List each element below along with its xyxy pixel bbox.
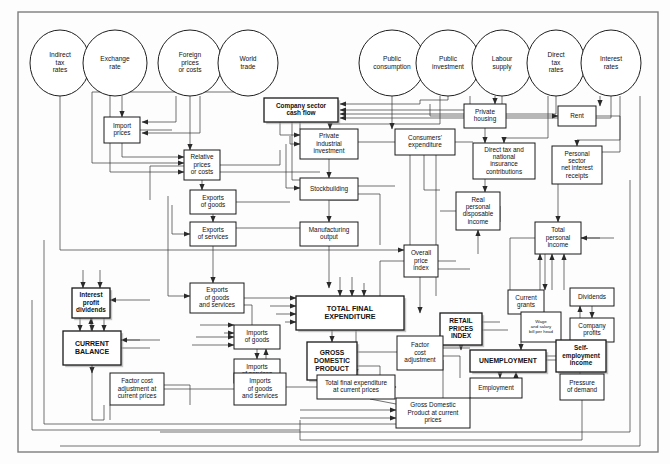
node-total_personal_income[interactable]: Totalpersonalincome [535, 222, 581, 254]
node-real_personal_disposable_income[interactable]: Realpersonaldisposableincome [456, 192, 500, 230]
svg-text:EXPENDITURE: EXPENDITURE [324, 312, 375, 321]
node-total_final_expenditure_current_prices[interactable]: Total final expenditureat current prices [317, 375, 395, 399]
node-employment[interactable]: Employment [470, 378, 522, 398]
node-factor_cost_adjustment[interactable]: Factorcostadjustment [397, 336, 443, 370]
svg-text:Real: Real [471, 196, 484, 203]
svg-text:investment: investment [432, 63, 464, 70]
node-rent[interactable]: Rent [558, 106, 596, 126]
exogenous-input-exchange_rate: Exchangerate [83, 30, 147, 96]
svg-text:of demand: of demand [567, 386, 598, 393]
svg-text:prices: prices [424, 416, 441, 424]
svg-text:Current: Current [515, 294, 537, 301]
node-consumers_expenditure[interactable]: Consumers'expenditure [395, 129, 455, 155]
svg-text:tax: tax [552, 59, 561, 66]
svg-text:rates: rates [604, 63, 619, 70]
svg-text:profits: profits [583, 329, 600, 337]
svg-text:output: output [320, 233, 338, 241]
node-total_final_expenditure[interactable]: TOTAL FINALEXPENDITURE [296, 296, 406, 332]
svg-text:of services: of services [198, 233, 229, 240]
node-overall_price_index[interactable]: Overallpriceindex [404, 245, 438, 277]
svg-text:Public: Public [383, 55, 402, 62]
exogenous-input-foreign_prices_or_costs: Foreignpricesor costs [158, 30, 222, 96]
svg-text:and services: and services [199, 301, 235, 308]
svg-text:INDEX: INDEX [451, 332, 472, 339]
node-unemployment[interactable]: UNEMPLOYMENT [470, 350, 548, 374]
svg-text:at current prices: at current prices [333, 386, 379, 394]
svg-text:DOMESTIC: DOMESTIC [314, 357, 350, 364]
exogenous-input-world_trade: Worldtrade [218, 30, 278, 96]
node-current_grants[interactable]: Currentgrants [508, 290, 544, 314]
svg-text:Interest: Interest [600, 55, 622, 62]
node-imports_of_goods[interactable]: Importsof goods [234, 325, 280, 349]
node-retail_prices_index[interactable]: RETAILPRICESINDEX [440, 313, 484, 347]
exogenous-input-direct_tax_rates: Directtaxrates [527, 30, 585, 96]
node-company_profits[interactable]: Companyprofits [570, 318, 614, 342]
svg-text:CURRENT: CURRENT [75, 340, 110, 347]
node-import_prices[interactable]: Importprices [104, 117, 140, 143]
svg-text:investment: investment [314, 147, 345, 154]
svg-text:cash flow: cash flow [286, 109, 315, 116]
svg-text:income: income [548, 241, 569, 248]
node-current_balance[interactable]: CURRENTBALANCE [63, 331, 123, 367]
node-exports_of_goods_and_services[interactable]: Exportsof goodsand services [190, 283, 244, 313]
node-exports_of_goods[interactable]: Exportsof goods [190, 190, 236, 214]
svg-text:UNEMPLOYMENT: UNEMPLOYMENT [479, 357, 538, 364]
svg-text:expenditure: expenditure [408, 141, 442, 149]
svg-text:PRICES: PRICES [449, 325, 474, 332]
svg-text:Labour: Labour [492, 55, 513, 62]
svg-text:income: income [570, 359, 593, 366]
svg-text:Direct: Direct [547, 51, 564, 58]
svg-text:income: income [468, 218, 489, 225]
svg-text:Consumers': Consumers' [408, 134, 442, 141]
node-gross_domestic_product_current_prices[interactable]: Gross DomesticProduct at currentprices [396, 398, 470, 428]
svg-text:cost: cost [414, 349, 426, 356]
node-direct_tax_and_nic[interactable]: Direct tax andnationalinsurancecontribut… [473, 143, 535, 179]
exogenous-input-public_investment: Publicinvestment [416, 30, 480, 96]
node-factor_cost_adjustment_current_prices[interactable]: Factor costadjustment atcurrent prices [110, 373, 164, 405]
svg-text:receipts: receipts [566, 172, 588, 180]
diagram-canvas: Company sectorcash flowPrivatehousingRen… [0, 0, 670, 464]
svg-text:Interest: Interest [79, 291, 103, 298]
node-private_industrial_investment[interactable]: Privateindustrialinvestment [300, 129, 358, 159]
node-self_employment_income[interactable]: Self-employmentincome [556, 340, 608, 374]
svg-text:Stockbuilding: Stockbuilding [310, 185, 348, 193]
exogenous-input-public_consumption: Publicconsumption [359, 30, 425, 96]
svg-text:or costs: or costs [178, 66, 202, 73]
node-interest_profit_dividends[interactable]: Interestprofitdividends [72, 288, 112, 320]
svg-text:consumption: consumption [373, 63, 411, 71]
svg-text:or costs: or costs [191, 168, 213, 175]
svg-text:and services: and services [242, 392, 278, 399]
svg-text:contributions: contributions [486, 168, 522, 175]
node-company_sector_cash_flow[interactable]: Company sectorcash flow [264, 98, 340, 124]
node-dividends[interactable]: Dividends [570, 288, 614, 306]
svg-text:index: index [413, 264, 429, 271]
svg-text:of goods: of goods [201, 201, 226, 209]
svg-text:Private: Private [319, 132, 339, 139]
node-manufacturing_output[interactable]: Manufacturingoutput [300, 222, 358, 246]
svg-text:housing: housing [474, 115, 497, 123]
svg-text:Public: Public [439, 55, 458, 62]
svg-text:dividends: dividends [76, 306, 106, 313]
node-pressure_of_demand[interactable]: Pressureof demand [560, 374, 604, 400]
node-personal_sector_net_interest_receipts[interactable]: Personalsectornet interestreceipts [552, 146, 602, 184]
svg-text:of goods: of goods [245, 336, 270, 344]
node-private_housing[interactable]: Privatehousing [464, 104, 506, 128]
svg-text:PRODUCT: PRODUCT [315, 365, 349, 372]
svg-text:Factor: Factor [411, 341, 430, 348]
node-stockbuilding[interactable]: Stockbuilding [300, 178, 358, 200]
node-relative_prices_or_costs[interactable]: Relativepricesor costs [184, 150, 220, 180]
exogenous-input-indirect_tax_rates: Indirecttaxrates [30, 30, 90, 96]
node-imports_of_goods_and_services[interactable]: Importsof goodsand services [234, 373, 286, 405]
svg-text:rates: rates [549, 66, 564, 73]
node-wage_and_salary_bill_per_head[interactable]: Wageand salarybill per head [521, 312, 561, 342]
node-exports_of_services[interactable]: Exportsof services [190, 222, 236, 246]
economic-flow-diagram: Company sectorcash flowPrivatehousingRen… [0, 0, 670, 464]
svg-text:Factor cost: Factor cost [121, 377, 153, 384]
svg-text:Employment: Employment [478, 384, 514, 392]
svg-text:rate: rate [109, 63, 121, 70]
svg-text:Private: Private [475, 108, 495, 115]
svg-text:trade: trade [240, 63, 255, 70]
svg-text:World: World [239, 55, 256, 62]
svg-text:adjustment: adjustment [404, 356, 435, 364]
svg-text:Self-: Self- [574, 344, 588, 351]
